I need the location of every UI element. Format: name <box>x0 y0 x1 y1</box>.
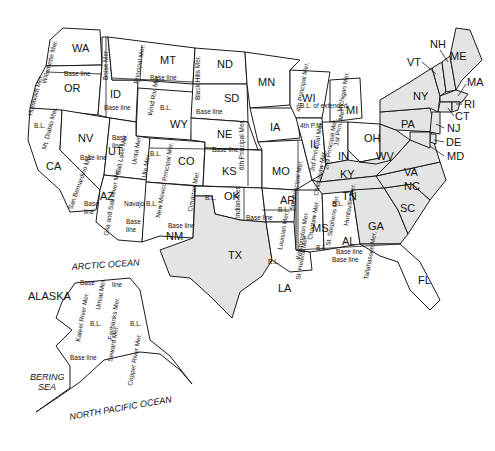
label-NM: NM <box>166 230 183 242</box>
label-bl-ak-1: B.L. <box>90 320 102 327</box>
label-bl-ute: B.L. <box>150 150 162 157</box>
label-ME: ME <box>450 50 467 62</box>
label-line-ut: line <box>112 142 123 149</box>
label-SD: SD <box>224 92 239 104</box>
label-RI: RI <box>464 98 475 110</box>
label-bl-extended: B.L. of extended <box>300 102 348 109</box>
label-base-ut: Base <box>112 134 127 141</box>
label-bl-ok: B.L. <box>205 194 217 201</box>
label-ND: ND <box>217 58 233 70</box>
label-CA: CA <box>46 160 62 172</box>
label-WY: WY <box>170 118 188 130</box>
state-DE <box>430 134 436 144</box>
label-black-hills: Black Hills Mer. <box>194 55 201 100</box>
label-LA: LA <box>278 282 292 294</box>
label-WV: WV <box>376 150 394 162</box>
label-VT: VT <box>407 56 421 68</box>
label-line-az: line <box>126 226 137 233</box>
label-NE: NE <box>217 128 232 140</box>
label-north-pacific-ocean: NORTH PACIFIC OCEAN <box>69 394 173 422</box>
label-KS: KS <box>222 165 237 177</box>
label-IN: IN <box>338 150 349 162</box>
label-bl-wind-river: B.L. <box>160 104 172 111</box>
label-base-line-sd: Base line <box>196 108 223 115</box>
label-WA: WA <box>72 42 90 54</box>
state-NJ <box>430 112 440 134</box>
label-IA: IA <box>270 121 281 133</box>
label-bering: BERING <box>30 372 65 382</box>
label-base-line-nv: Base line <box>80 154 107 161</box>
label-indian: Indian Mer. <box>234 186 241 218</box>
label-line-ca: line <box>84 208 95 215</box>
label-sea: SEA <box>38 382 56 392</box>
label-bl-humboldt: B.L. <box>34 122 46 129</box>
label-base-line-al: Base line <box>336 248 363 255</box>
label-ID: ID <box>110 88 121 100</box>
label-base-line-nm: Base line <box>168 222 195 229</box>
label-base-line-id: Base line <box>104 104 131 111</box>
label-GA: GA <box>368 220 385 232</box>
label-line-ak: line <box>112 281 123 288</box>
label-base-az: Base <box>126 218 141 225</box>
label-CO: CO <box>178 155 195 167</box>
label-base-line-ak: Base line <box>70 354 97 361</box>
label-SC: SC <box>400 202 415 214</box>
label-bl-la: B.L. <box>268 258 280 265</box>
label-base-line-ne: Base line <box>212 146 239 153</box>
label-MA: MA <box>467 76 484 88</box>
label-AL: AL <box>342 235 355 247</box>
label-MN: MN <box>258 76 275 88</box>
label-KY: KY <box>340 168 355 180</box>
label-base-line-fl: Base line <box>332 256 359 263</box>
label-boise: Boise Mer. <box>102 49 109 80</box>
label-CT: CT <box>455 110 470 122</box>
label-bl-ms: B.L. <box>316 244 328 251</box>
label-NH: NH <box>430 38 446 50</box>
label-bl-ar: B.L. <box>278 206 290 213</box>
label-PA: PA <box>401 118 416 130</box>
label-NC: NC <box>404 180 420 192</box>
label-MO: MO <box>272 165 290 177</box>
label-navajo: Navajo B.L. <box>124 200 158 208</box>
label-base-line-ok: Base line <box>246 214 273 221</box>
label-bl-tn: B.L. <box>332 200 344 207</box>
label-DE: DE <box>446 136 461 148</box>
state-WY <box>136 88 193 140</box>
label-TX: TX <box>228 249 243 261</box>
label-VA: VA <box>404 166 419 178</box>
label-MI: MI <box>346 104 358 116</box>
label-OR: OR <box>64 82 81 94</box>
label-NY: NY <box>413 90 429 102</box>
label-base-line-or: Base line <box>64 70 91 77</box>
label-arctic-ocean: ARCTIC OCEAN <box>70 257 140 272</box>
label-AK: ALASKA <box>28 290 71 302</box>
label-NV: NV <box>78 132 94 144</box>
label-bl-ak-2: B.L. <box>130 320 142 327</box>
label-6th: 6th Principal Mer. <box>238 120 246 170</box>
state-NY <box>380 68 440 112</box>
label-MT: MT <box>160 54 176 66</box>
label-OH: OH <box>364 132 381 144</box>
label-base-ak: Base <box>80 279 95 286</box>
label-base-ca: Base <box>84 200 99 207</box>
label-NJ: NJ <box>447 122 460 134</box>
us-meridian-map: WA OR CA NV ID MT WY UT AZ CO NM ND SD N… <box>0 0 495 451</box>
label-FL: FL <box>418 274 431 286</box>
label-base-line-mt: Base line <box>150 74 177 81</box>
label-MD: MD <box>447 150 464 162</box>
